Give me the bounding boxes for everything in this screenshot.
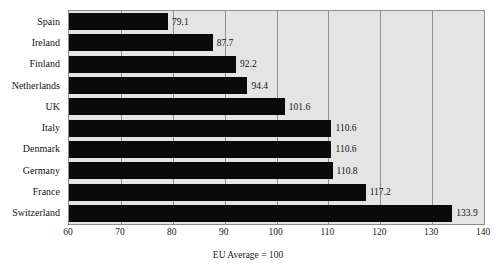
bar-value-label: 92.2 <box>236 59 257 69</box>
category-label: Italy <box>42 122 60 133</box>
bar-row[interactable]: 110.6 <box>69 141 484 158</box>
category-label: Finland <box>29 58 60 69</box>
bar-value-label: 110.6 <box>331 144 356 154</box>
bar-row[interactable]: 79.1 <box>69 13 484 30</box>
x-tick-label: 130 <box>424 227 438 237</box>
category-label: UK <box>46 100 60 111</box>
x-tick-label: 110 <box>320 227 334 237</box>
bar[interactable] <box>69 34 213 51</box>
bar-row[interactable]: 110.6 <box>69 120 484 137</box>
bar[interactable] <box>69 141 331 158</box>
x-tick-label: 90 <box>219 227 229 237</box>
category-label: Denmark <box>23 143 60 154</box>
figure-title-strip: Figure 1.1 Gross domestic product per he… <box>0 0 496 7</box>
bar-value-label: 133.9 <box>452 208 477 218</box>
bar[interactable] <box>69 13 168 30</box>
bar[interactable] <box>69 184 366 201</box>
bar-row[interactable]: 92.2 <box>69 56 484 73</box>
bar-value-label: 94.4 <box>247 81 268 91</box>
bar-value-label: 110.6 <box>331 123 356 133</box>
bar-value-label: 79.1 <box>168 17 189 27</box>
plot-area: 79.187.792.294.4101.6110.6110.6110.8117.… <box>68 10 485 225</box>
x-axis-tick-labels: 60708090100110120130140 <box>68 227 485 241</box>
x-tick-label: 80 <box>167 227 177 237</box>
bar[interactable] <box>69 98 285 115</box>
bar-value-label: 117.2 <box>366 187 391 197</box>
category-axis-labels: SpainIrelandFinlandNetherlandsUKItalyDen… <box>0 10 64 225</box>
bar[interactable] <box>69 162 333 179</box>
category-label: France <box>33 186 60 197</box>
x-axis-title: EU Average = 100 <box>0 250 496 260</box>
bar-value-label: 101.6 <box>285 102 310 112</box>
bar[interactable] <box>69 205 452 222</box>
bar-value-label: 87.7 <box>213 38 234 48</box>
category-label: Spain <box>37 15 60 26</box>
x-tick-label: 120 <box>372 227 386 237</box>
bar-value-label: 110.8 <box>333 166 358 176</box>
bar[interactable] <box>69 77 247 94</box>
bar-row[interactable]: 87.7 <box>69 34 484 51</box>
x-tick-label: 60 <box>63 227 73 237</box>
bar-row[interactable]: 101.6 <box>69 98 484 115</box>
gridline <box>484 11 485 224</box>
figure-container: Figure 1.1 Gross domestic product per he… <box>0 0 496 276</box>
bar-row[interactable]: 110.8 <box>69 162 484 179</box>
x-tick-label: 100 <box>268 227 282 237</box>
category-label: Netherlands <box>12 79 60 90</box>
bar-row[interactable]: 133.9 <box>69 205 484 222</box>
category-label: Ireland <box>32 36 60 47</box>
bar-row[interactable]: 94.4 <box>69 77 484 94</box>
x-tick-label: 70 <box>115 227 125 237</box>
x-tick-label: 140 <box>476 227 490 237</box>
bar-row[interactable]: 117.2 <box>69 184 484 201</box>
category-label: Germany <box>23 164 60 175</box>
category-label: Switzerland <box>12 207 60 218</box>
bar[interactable] <box>69 120 331 137</box>
bar[interactable] <box>69 56 236 73</box>
